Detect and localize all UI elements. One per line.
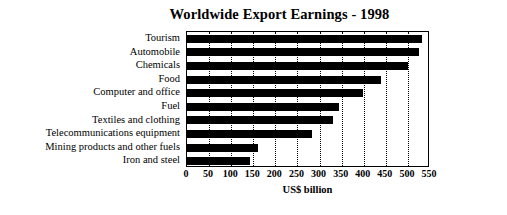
bar-row [187, 154, 428, 168]
bar [187, 157, 250, 165]
bar [187, 76, 381, 84]
x-axis-tick-labels: 050100150200250300350400450500550 [186, 168, 429, 181]
y-axis-label: Chemicals [0, 58, 183, 72]
bar-row [187, 32, 428, 46]
bar [187, 116, 333, 124]
bar-row [187, 59, 428, 73]
x-axis-title: US$ billion [186, 184, 429, 195]
y-axis-category-labels: TourismAutomobileChemicalsFoodComputer a… [0, 31, 183, 167]
chart-title: Worldwide Export Earnings - 1998 [0, 6, 507, 23]
bar [187, 62, 408, 70]
x-axis-tick: 450 [377, 168, 392, 179]
y-axis-label: Automobile [0, 45, 183, 59]
bar-series [187, 32, 428, 166]
y-axis-label: Mining products and other fuels [0, 140, 183, 154]
x-axis-tick: 200 [267, 168, 282, 179]
x-axis-tick: 500 [399, 168, 414, 179]
x-axis-tick: 300 [311, 168, 326, 179]
x-axis-tick: 0 [184, 168, 189, 179]
y-axis-label: Telecommunications equipment [0, 126, 183, 140]
y-axis-label: Tourism [0, 31, 183, 45]
bar [187, 48, 419, 56]
bar-row [187, 114, 428, 128]
bar-row [187, 46, 428, 60]
bar-row [187, 127, 428, 141]
x-axis-tick: 150 [245, 168, 260, 179]
y-axis-label: Fuel [0, 99, 183, 113]
x-axis-tick: 400 [355, 168, 370, 179]
bar [187, 103, 339, 111]
bar [187, 89, 363, 97]
bar-row [187, 86, 428, 100]
y-axis-label: Textiles and clothing [0, 113, 183, 127]
x-axis-tick: 50 [203, 168, 213, 179]
x-axis-tick: 350 [333, 168, 348, 179]
bar-row [187, 100, 428, 114]
chart-figure: Worldwide Export Earnings - 1998 Tourism… [0, 0, 507, 215]
bar-row [187, 141, 428, 155]
y-axis-label: Computer and office [0, 85, 183, 99]
plot-area [186, 31, 429, 167]
y-axis-label: Iron and steel [0, 153, 183, 167]
y-axis-label: Food [0, 72, 183, 86]
x-axis-tick: 550 [422, 168, 437, 179]
bar [187, 35, 422, 43]
bar [187, 144, 258, 152]
x-axis-tick: 250 [289, 168, 304, 179]
bar [187, 130, 312, 138]
x-axis-tick: 100 [223, 168, 238, 179]
bar-row [187, 73, 428, 87]
